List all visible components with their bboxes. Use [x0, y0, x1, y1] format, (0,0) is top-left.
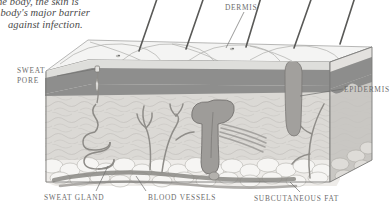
- hair-shaft: [340, 0, 356, 44]
- skin-anatomy-figure: the body, the skin is e body's major bar…: [0, 0, 392, 206]
- label-blood-vessels: BLOOD VESSELS: [148, 193, 216, 202]
- leader-dermis: [226, 12, 244, 48]
- label-sweat-gland: SWEAT GLAND: [44, 193, 104, 202]
- hair-shaft: [294, 0, 313, 48]
- secondary-hair-follicle: [285, 60, 302, 136]
- block-front-face: [40, 60, 340, 188]
- label-epidermis: EPIDERMIS: [344, 85, 390, 94]
- hair-shaft: [186, 0, 205, 49]
- pore-dot: [232, 48, 234, 49]
- label-dermis: DERMIS: [225, 3, 257, 12]
- pore-dot: [118, 55, 120, 56]
- skin-cross-section-illustration: [0, 0, 392, 206]
- label-sweat-pore-line2: PORE: [17, 76, 39, 85]
- label-sweat-pore-line1: SWEAT: [17, 66, 45, 75]
- block-right-side-face: [328, 47, 376, 182]
- label-subcutaneous-fat: SUBCUTANEOUS FAT: [254, 194, 339, 203]
- sweat-pore-opening: [95, 66, 100, 72]
